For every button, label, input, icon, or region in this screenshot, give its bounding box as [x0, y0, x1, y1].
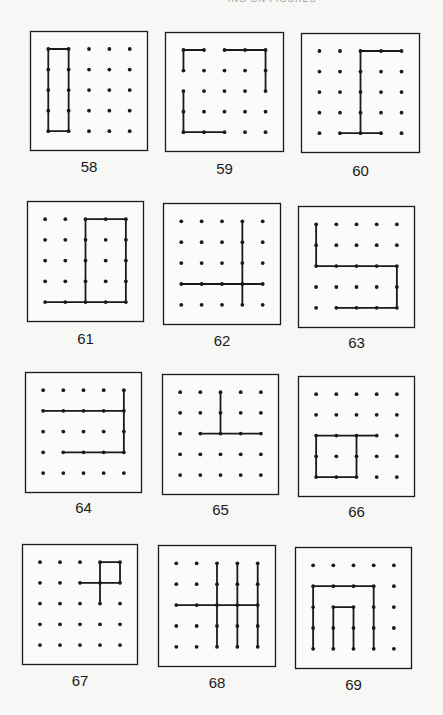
- grid-dot: [118, 581, 122, 585]
- grid-dot: [359, 90, 363, 94]
- grid-dot: [243, 89, 247, 93]
- grid-dot: [352, 584, 356, 588]
- grid-dot: [118, 643, 122, 647]
- grid-dot: [314, 306, 318, 310]
- grid-dot: [98, 560, 102, 564]
- grid-dot: [107, 88, 111, 92]
- grid-dot: [314, 454, 318, 458]
- grid-dot: [87, 109, 91, 113]
- grid-dot: [82, 409, 86, 413]
- grid-dot: [43, 238, 47, 242]
- grid-dot: [311, 584, 315, 588]
- grid-dot: [58, 581, 62, 585]
- grid-dot: [104, 279, 108, 283]
- grid-dot: [395, 434, 399, 438]
- grid-dot: [98, 581, 102, 585]
- grid-dot: [392, 647, 396, 651]
- grid-dot: [219, 473, 223, 477]
- grid-dot: [174, 582, 178, 586]
- grid-dot: [395, 454, 399, 458]
- grid-dot: [178, 473, 182, 477]
- grid-dot: [318, 111, 322, 115]
- grid-dot: [67, 129, 71, 133]
- grid-dot: [219, 432, 223, 436]
- grid-dot: [256, 603, 260, 607]
- grid-dot: [82, 388, 86, 392]
- figure-number-label: 66: [348, 503, 365, 520]
- grid-dot: [43, 259, 47, 263]
- grid-dot: [41, 430, 45, 434]
- grid-dot: [200, 261, 204, 265]
- grid-dot: [38, 581, 42, 585]
- grid-dot: [118, 560, 122, 564]
- grid-dot: [41, 471, 45, 475]
- dot-grid-figure: [158, 545, 276, 667]
- grid-dot: [174, 645, 178, 649]
- grid-dot: [78, 602, 82, 606]
- grid-dot: [67, 88, 71, 92]
- figure-panel-58: [30, 31, 148, 151]
- grid-dot: [355, 475, 359, 479]
- grid-dot: [174, 561, 178, 565]
- grid-dot: [355, 392, 359, 396]
- grid-dot: [311, 647, 315, 651]
- grid-dot: [41, 388, 45, 392]
- dot-grid-figure: [295, 547, 412, 669]
- figure-number-label: 64: [75, 499, 92, 516]
- grid-dot: [379, 49, 383, 53]
- grid-dot: [311, 605, 315, 609]
- grid-dot: [179, 219, 183, 223]
- grid-dot: [264, 48, 268, 52]
- grid-dot: [179, 240, 183, 244]
- grid-dot: [331, 605, 335, 609]
- running-head: ING ON FIGURES: [228, 0, 358, 4]
- grid-dot: [379, 90, 383, 94]
- grid-dot: [400, 70, 404, 74]
- grid-dot: [178, 432, 182, 436]
- figure-number-label: 62: [214, 332, 231, 349]
- grid-dot: [219, 411, 223, 415]
- grid-dot: [395, 222, 399, 226]
- grid-dot: [198, 411, 202, 415]
- grid-dot: [215, 645, 219, 649]
- grid-dot: [179, 261, 183, 265]
- figure-number-label: 60: [352, 162, 369, 179]
- grid-dot: [58, 622, 62, 626]
- grid-dot: [338, 131, 342, 135]
- grid-dot: [259, 452, 263, 456]
- grid-dot: [195, 582, 199, 586]
- grid-dot: [41, 450, 45, 454]
- grid-dot: [87, 47, 91, 51]
- grid-dot: [392, 584, 396, 588]
- grid-dot: [392, 605, 396, 609]
- grid-dot: [87, 88, 91, 92]
- grid-dot: [239, 390, 243, 394]
- figure-panel-67: [22, 544, 138, 665]
- grid-dot: [215, 624, 219, 628]
- grid-dot: [259, 473, 263, 477]
- grid-dot: [375, 475, 379, 479]
- grid-dot: [392, 563, 396, 567]
- grid-dot: [84, 279, 88, 283]
- grid-dot: [261, 282, 265, 286]
- grid-dot: [223, 130, 227, 134]
- grid-dot: [334, 413, 338, 417]
- grid-dot: [375, 243, 379, 247]
- grid-dot: [235, 624, 239, 628]
- figure-panel-59: [165, 32, 284, 152]
- grid-dot: [314, 264, 318, 268]
- figure-panel-61: [27, 201, 144, 322]
- grid-dot: [87, 68, 91, 72]
- grid-dot: [223, 48, 227, 52]
- grid-dot: [314, 222, 318, 226]
- grid-dot: [311, 563, 315, 567]
- grid-dot: [46, 47, 50, 51]
- grid-dot: [179, 303, 183, 307]
- grid-dot: [198, 452, 202, 456]
- grid-dot: [239, 452, 243, 456]
- grid-dot: [243, 48, 247, 52]
- grid-dot: [243, 130, 247, 134]
- grid-dot: [359, 131, 363, 135]
- grid-dot: [179, 282, 183, 286]
- grid-dot: [372, 626, 376, 630]
